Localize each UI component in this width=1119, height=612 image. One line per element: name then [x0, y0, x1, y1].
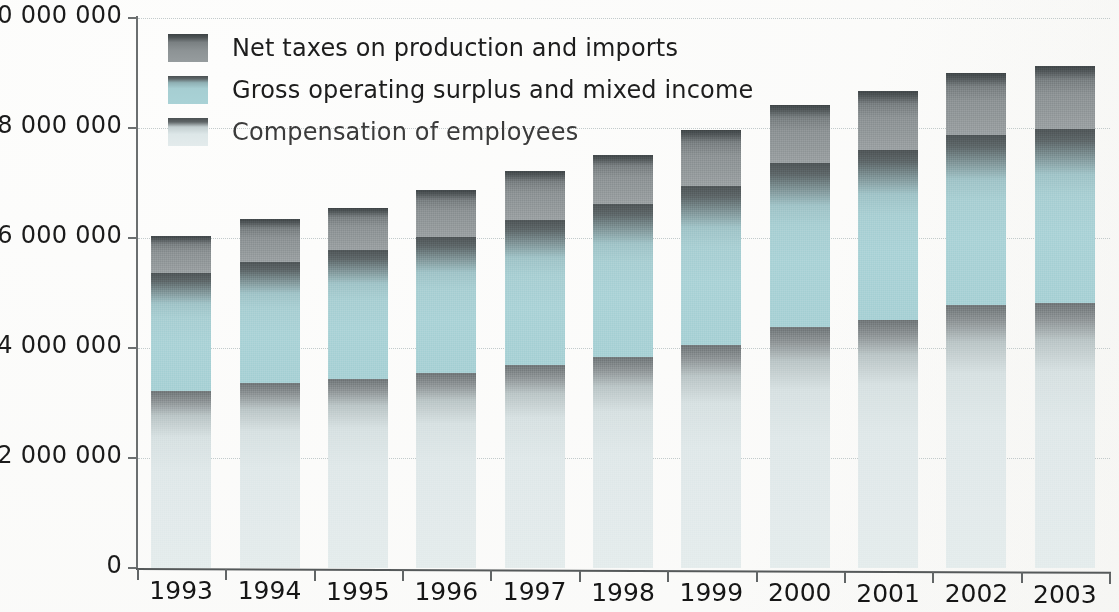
x-axis-tick-label: 1995 — [313, 577, 403, 606]
y-axis-tick-label: 6 000 000 — [0, 221, 122, 249]
bar-segment — [1035, 129, 1095, 303]
bar-segment — [240, 383, 300, 568]
bar-segment — [416, 190, 476, 237]
x-axis-tick-label: 2001 — [843, 579, 933, 608]
bar-segment — [151, 236, 211, 273]
bar-segment — [946, 73, 1006, 135]
legend-swatch-compensation-of-employees — [168, 118, 208, 146]
bar-segment — [1035, 303, 1095, 568]
x-axis-line — [136, 568, 1111, 574]
bar-2002 — [946, 18, 1006, 568]
bar-segment — [240, 219, 300, 262]
legend-swatch-gross-operating-surplus — [168, 76, 208, 104]
x-axis-tick-label: 1999 — [666, 578, 756, 607]
bar-segment — [593, 357, 653, 568]
bar-segment — [505, 171, 565, 220]
y-axis-tick-label: 8 000 000 — [0, 111, 122, 139]
bar-segment — [593, 155, 653, 204]
x-axis-tick-label: 1997 — [490, 577, 580, 606]
bar-segment — [770, 327, 830, 568]
bar-segment — [858, 91, 918, 150]
bar-segment — [946, 135, 1006, 305]
x-axis-tick-label: 1998 — [578, 578, 668, 607]
bar-segment — [946, 305, 1006, 568]
x-axis-tick-label: 1994 — [225, 576, 315, 605]
bar-segment — [858, 320, 918, 568]
bar-segment — [770, 105, 830, 163]
x-axis-tick-label: 1993 — [136, 576, 226, 605]
y-axis-tick-label: 2 000 000 — [0, 441, 122, 469]
bar-segment — [593, 204, 653, 357]
chart-legend: Net taxes on production and imports Gros… — [168, 30, 753, 156]
x-axis-tick-label: 2000 — [755, 578, 845, 607]
bar-segment — [505, 365, 565, 568]
legend-label-gross-operating-surplus: Gross operating surplus and mixed income — [232, 76, 753, 104]
bar-segment — [240, 262, 300, 383]
y-axis-tick-label: 0 — [106, 551, 122, 579]
bar-segment — [858, 150, 918, 320]
bar-segment — [505, 220, 565, 365]
x-axis-tick-label: 2002 — [931, 579, 1021, 608]
legend-item-compensation-of-employees: Compensation of employees — [168, 114, 753, 150]
x-axis-tick-label: 1996 — [401, 577, 491, 606]
legend-item-net-taxes: Net taxes on production and imports — [168, 30, 753, 66]
legend-item-gross-operating-surplus: Gross operating surplus and mixed income — [168, 72, 753, 108]
bar-2000 — [770, 18, 830, 568]
bar-2003 — [1035, 18, 1095, 568]
bar-segment — [328, 379, 388, 568]
y-axis-tick-label: 10 000 000 — [0, 1, 122, 29]
legend-label-net-taxes: Net taxes on production and imports — [232, 34, 678, 62]
bar-segment — [328, 208, 388, 250]
bar-segment — [151, 273, 211, 391]
bar-2001 — [858, 18, 918, 568]
stacked-bar-chart: 02 000 0004 000 0006 000 0008 000 00010 … — [0, 0, 1119, 612]
x-axis-tick — [1109, 573, 1111, 584]
bar-segment — [681, 345, 741, 568]
bar-segment — [416, 237, 476, 373]
x-axis-tick-label: 2003 — [1020, 580, 1110, 609]
bar-segment — [151, 391, 211, 568]
legend-swatch-net-taxes — [168, 34, 208, 62]
bar-segment — [416, 373, 476, 568]
bar-segment — [328, 250, 388, 379]
bar-segment — [1035, 66, 1095, 129]
y-axis-tick-label: 4 000 000 — [0, 331, 122, 359]
bar-segment — [681, 186, 741, 346]
bar-segment — [770, 163, 830, 327]
legend-label-compensation-of-employees: Compensation of employees — [232, 118, 578, 146]
